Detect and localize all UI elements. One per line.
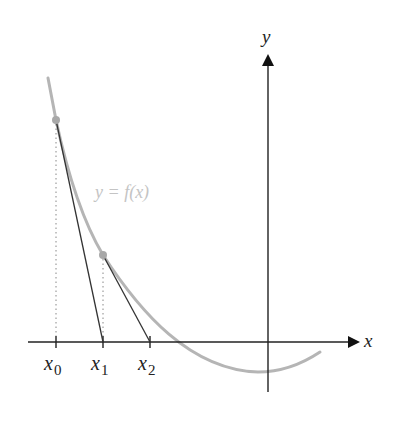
- tick-label-base: x: [91, 352, 100, 374]
- tick-label-subscript: 0: [54, 362, 62, 378]
- tick-label-subscript: 1: [101, 362, 109, 378]
- x-axis-label: x: [364, 330, 372, 352]
- tick-label-x1: x1: [91, 352, 108, 375]
- tick-label-x0: x0: [44, 352, 61, 375]
- tangent-line-2: [103, 255, 150, 342]
- tangent-line-1: [56, 120, 103, 342]
- point-x0: [52, 116, 60, 124]
- y-axis-label: y: [262, 26, 270, 48]
- point-x1: [99, 251, 107, 259]
- function-curve: [48, 78, 320, 372]
- tick-label-subscript: 2: [148, 362, 156, 378]
- tick-label-base: x: [138, 352, 147, 374]
- x-axis-arrow-icon: [348, 336, 360, 348]
- y-axis-arrow-icon: [262, 54, 274, 66]
- tick-label-x2: x2: [138, 352, 155, 375]
- curve-label: y = f(x): [95, 182, 149, 203]
- tick-label-base: x: [44, 352, 53, 374]
